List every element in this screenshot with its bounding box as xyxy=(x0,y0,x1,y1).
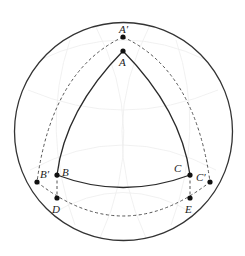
point-e xyxy=(187,195,192,200)
label-a: A xyxy=(118,56,126,68)
spherical-triangle-diagram: A′ A B B′ C C′ D E xyxy=(0,0,245,256)
label-b: B xyxy=(62,166,69,178)
label-e: E xyxy=(184,203,192,215)
label-a-prime: A′ xyxy=(118,23,129,35)
side-ab xyxy=(57,51,123,175)
point-d xyxy=(54,195,59,200)
point-a xyxy=(120,48,125,53)
label-b-prime: B′ xyxy=(40,168,50,180)
side-bc xyxy=(57,175,190,188)
point-a-prime xyxy=(120,34,125,39)
side-ac xyxy=(123,51,190,175)
label-d: D xyxy=(51,203,60,215)
point-c xyxy=(187,172,192,177)
label-c: C xyxy=(174,162,182,174)
point-b xyxy=(54,172,59,177)
point-c-prime xyxy=(207,179,212,184)
label-c-prime: C′ xyxy=(196,171,206,183)
point-b-prime xyxy=(34,179,39,184)
